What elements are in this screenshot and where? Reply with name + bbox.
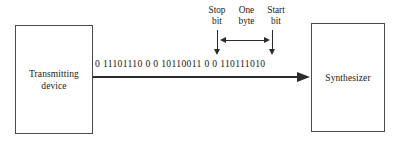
- annotation-label-start-bit: Startbit: [262, 5, 290, 27]
- annotation-label-one-byte: Onebyte: [232, 5, 261, 27]
- signal-arrow-line: [93, 76, 305, 78]
- stop-bit-pointer-stem: [217, 30, 218, 51]
- node-synthesizer: Synthesizer: [311, 23, 385, 132]
- one-byte-span-line: [223, 40, 266, 41]
- one-byte-left-arrow-icon: [220, 37, 226, 43]
- node-transmitting-device-label: Transmittingdevice: [29, 68, 79, 92]
- start-bit-pointer-stem: [272, 30, 273, 51]
- one-byte-right-arrow-icon: [264, 37, 270, 43]
- start-bit-down-arrow-icon: [269, 49, 275, 55]
- diagram-canvas: Transmittingdevice Synthesizer 0 1110111…: [0, 0, 399, 143]
- annotation-label-stop-bit: Stopbit: [203, 5, 231, 27]
- node-synthesizer-label: Synthesizer: [325, 72, 370, 84]
- stop-bit-down-arrow-icon: [214, 49, 220, 55]
- node-transmitting-device: Transmittingdevice: [15, 25, 93, 134]
- signal-arrow-head-icon: [297, 72, 310, 82]
- bitstream-text: 0 11101110 0 0 10110011 0 0 110111010: [95, 58, 265, 70]
